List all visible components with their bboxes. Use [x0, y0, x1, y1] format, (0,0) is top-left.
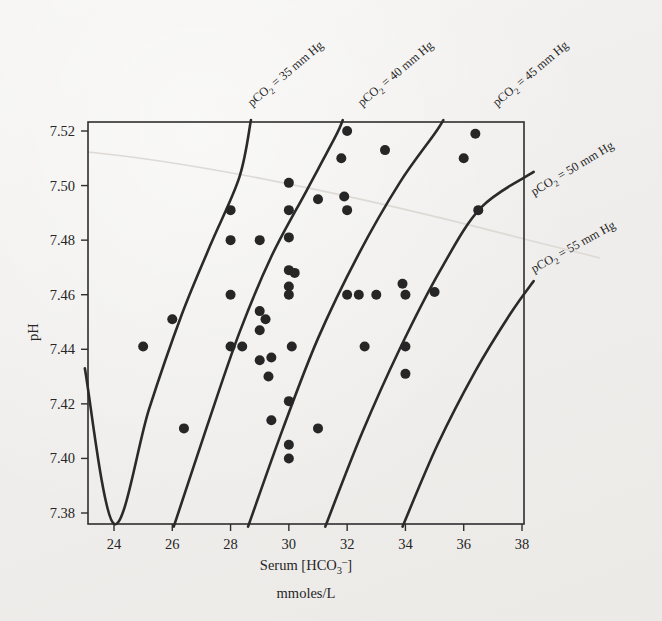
plot-frame	[88, 122, 524, 524]
data-point	[179, 423, 189, 433]
data-point	[400, 290, 410, 300]
data-point	[287, 342, 297, 352]
y-tick-label-7.46: 7.46	[50, 287, 75, 303]
y-tick-label-7.42: 7.42	[50, 396, 75, 412]
data-point	[398, 279, 408, 289]
y-tick-label-7.44: 7.44	[50, 341, 76, 357]
isopleth-label-suffix: = 55 mm Hg	[553, 218, 618, 262]
x-tick-label-38: 38	[515, 536, 530, 552]
data-point	[263, 372, 273, 382]
data-point	[284, 453, 294, 463]
x-axis-tick-labels: 2426283032343638	[107, 536, 530, 552]
data-point	[255, 325, 265, 335]
x-tick-label-30: 30	[282, 536, 297, 552]
x-tick-label-32: 32	[340, 536, 355, 552]
x-tick-label-36: 36	[456, 536, 471, 552]
data-point	[342, 205, 352, 215]
data-point	[342, 290, 352, 300]
data-point	[266, 352, 276, 362]
isopleth-label-50: pCO2 = 50 mm Hg	[528, 138, 617, 201]
data-point	[284, 232, 294, 242]
data-point	[261, 314, 271, 324]
isopleth-label-suffix: = 50 mm Hg	[552, 138, 616, 184]
isopleth-label-suffix: = 45 mm Hg	[511, 38, 571, 91]
data-point	[339, 191, 349, 201]
y-tick-label-7.38: 7.38	[50, 505, 75, 521]
x-tick-label-26: 26	[165, 536, 180, 552]
data-point	[167, 314, 177, 324]
data-point	[380, 145, 390, 155]
isopleth-curve-40	[174, 120, 343, 527]
isopleth-curve-35	[85, 120, 251, 524]
pco2-isopleth-labels: pCO2 = 35 mm HgpCO2 = 40 mm HgpCO2 = 45 …	[245, 38, 619, 278]
data-point	[336, 153, 346, 163]
data-point	[342, 126, 352, 136]
data-point	[226, 205, 236, 215]
x-tick-label-28: 28	[223, 536, 238, 552]
isopleth-label-55: pCO2 = 55 mm Hg	[529, 218, 619, 278]
isopleth-label-suffix: = 40 mm Hg	[376, 38, 436, 91]
y-tick-label-7.50: 7.50	[50, 178, 75, 194]
isopleth-label-prefix: pCO	[528, 174, 555, 198]
data-point	[313, 423, 323, 433]
data-point	[284, 205, 294, 215]
data-point	[470, 129, 480, 139]
y-axis-ticks	[81, 131, 88, 513]
x-axis-title-line1: Serum [HCO3–]	[260, 556, 352, 576]
x-axis-title-prefix: Serum [HCO	[260, 557, 337, 573]
isopleth-label-prefix: pCO	[529, 252, 556, 276]
y-tick-label-7.48: 7.48	[50, 232, 75, 248]
isopleth-label-suffix: = 35 mm Hg	[266, 38, 326, 91]
data-point	[226, 342, 236, 352]
x-axis-title-close: ]	[347, 557, 352, 573]
data-point	[266, 415, 276, 425]
data-point	[354, 290, 364, 300]
data-point	[459, 153, 469, 163]
pco2-isopleth-curves	[85, 120, 534, 527]
data-point	[284, 396, 294, 406]
x-axis-title-line2: mmoles/L	[277, 585, 336, 601]
data-point	[313, 194, 323, 204]
data-point	[138, 342, 148, 352]
data-point	[400, 369, 410, 379]
isopleth-curve-50	[325, 172, 533, 527]
data-point	[284, 178, 294, 188]
y-axis-tick-labels: 7.387.407.427.447.467.487.507.52	[50, 123, 76, 521]
data-point	[430, 287, 440, 297]
data-point	[284, 440, 294, 450]
data-point	[284, 290, 294, 300]
y-tick-label-7.52: 7.52	[50, 123, 75, 139]
data-point	[226, 290, 236, 300]
data-point	[255, 355, 265, 365]
y-axis-title: pH	[25, 323, 41, 341]
figure-canvas: 2426283032343638 7.387.407.427.447.467.4…	[0, 0, 662, 621]
data-point	[226, 235, 236, 245]
data-point	[255, 306, 265, 316]
isopleth-label-45: pCO2 = 45 mm Hg	[490, 38, 573, 111]
data-point	[255, 235, 265, 245]
acid-base-scatter-plot: 2426283032343638 7.387.407.427.447.467.4…	[0, 0, 662, 621]
data-point	[473, 205, 483, 215]
y-tick-label-7.40: 7.40	[50, 450, 75, 466]
data-point	[371, 290, 381, 300]
isopleth-label-35: pCO2 = 35 mm Hg	[245, 38, 328, 111]
isopleth-curve-55	[403, 281, 534, 527]
data-point	[290, 268, 300, 278]
isopleth-label-40: pCO2 = 40 mm Hg	[355, 38, 438, 111]
data-point	[237, 342, 247, 352]
data-point	[400, 342, 410, 352]
x-tick-label-24: 24	[107, 536, 122, 552]
data-point	[360, 342, 370, 352]
x-tick-label-34: 34	[398, 536, 413, 552]
